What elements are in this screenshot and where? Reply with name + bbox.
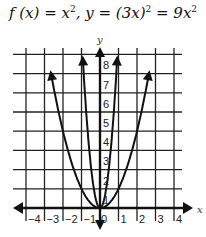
- y-axis-up-arrow-icon: [95, 47, 105, 57]
- y-tick-label: 8: [103, 59, 109, 71]
- x-axis-right-arrow-icon: [183, 202, 193, 214]
- y-tick-label: 1: [103, 194, 109, 206]
- y-tick-label: 7: [103, 79, 109, 91]
- y-tick-label: 6: [103, 98, 109, 110]
- curve-arrow-icon: [112, 56, 122, 66]
- x-tick-label: 1: [121, 213, 127, 225]
- grid: [13, 48, 182, 221]
- x-tick-label: −3: [47, 213, 60, 225]
- curve-arrow-icon: [78, 56, 88, 66]
- y-tick-label: 4: [103, 136, 109, 148]
- x-tick-label: 2: [139, 213, 145, 225]
- y-axis-label: y: [96, 34, 103, 45]
- x-tick-label: −1: [84, 213, 97, 225]
- x-tick-label: 0: [101, 213, 107, 225]
- x-tick-label: 4: [176, 213, 182, 225]
- curve-arrow-icon: [143, 70, 153, 81]
- x-axis-label: x: [197, 204, 203, 215]
- y-tick-label: 2: [103, 175, 109, 187]
- y-tick-label: 5: [103, 117, 109, 129]
- x-axis-left-arrow-icon: [13, 202, 23, 214]
- x-tick-label: −4: [28, 213, 41, 225]
- x-tick-label: 3: [158, 213, 164, 225]
- curve-arrow-icon: [47, 70, 57, 81]
- plot-area: −4−3−2−10123412345678xy: [0, 0, 206, 237]
- y-tick-label: 3: [103, 155, 109, 167]
- x-tick-label: −2: [65, 213, 78, 225]
